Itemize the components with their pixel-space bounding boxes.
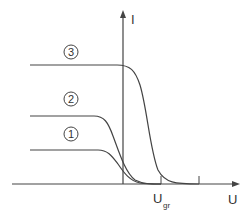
curve-label-1: 1 bbox=[64, 127, 78, 141]
svg-text:1: 1 bbox=[68, 128, 74, 140]
curve-1 bbox=[30, 150, 161, 184]
x-axis-label: U bbox=[228, 192, 237, 207]
diagram-canvas: 3 2 1 I U U gr bbox=[0, 0, 249, 217]
iv-characteristic-diagram: 3 2 1 I U U gr bbox=[0, 0, 249, 217]
ugr-label-sub: gr bbox=[163, 201, 170, 210]
curve-label-3: 3 bbox=[64, 45, 78, 59]
curve-label-2: 2 bbox=[64, 92, 78, 106]
ugr-label-main: U bbox=[153, 191, 162, 206]
y-axis-label: I bbox=[131, 12, 135, 27]
curve-3 bbox=[30, 65, 199, 184]
svg-text:3: 3 bbox=[68, 46, 74, 58]
svg-text:2: 2 bbox=[68, 93, 74, 105]
